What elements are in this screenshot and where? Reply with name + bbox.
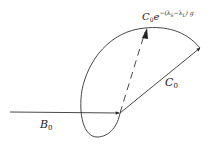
trajectory-curve bbox=[81, 28, 200, 137]
decayed-vector-arrowhead-icon bbox=[142, 28, 148, 39]
decayed-vector-dashed bbox=[120, 32, 145, 113]
b0-label: B0 bbox=[39, 118, 53, 132]
decay-label: C0e−(λS−λL) g bbox=[142, 9, 194, 23]
b0-vector bbox=[10, 112, 119, 113]
c0-vector bbox=[120, 48, 200, 113]
c0-label: C0 bbox=[165, 76, 178, 90]
phasor-diagram: B0 C0 C0e−(λS−λL) g bbox=[0, 0, 215, 147]
